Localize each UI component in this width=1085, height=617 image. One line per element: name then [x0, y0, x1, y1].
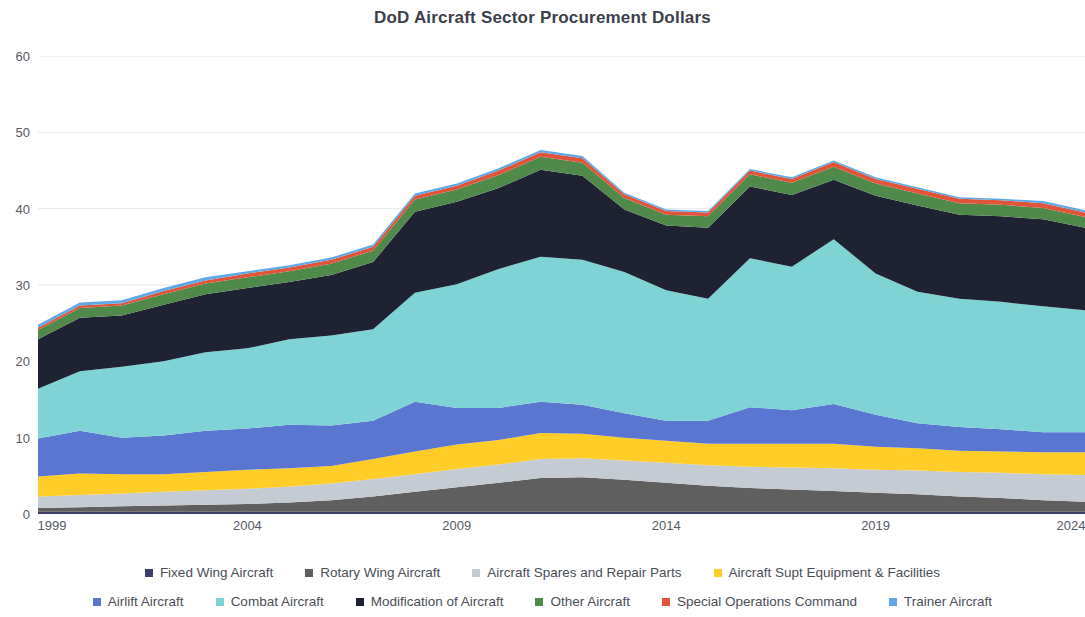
- legend-item-label: Combat Aircraft: [231, 594, 324, 609]
- legend-item-label: Rotary Wing Aircraft: [320, 565, 440, 580]
- legend-item[interactable]: Rotary Wing Aircraft: [305, 565, 440, 580]
- y-axis-tick-label: 60: [16, 49, 30, 64]
- legend-swatch-icon: [305, 569, 313, 577]
- legend-row-primary: Fixed Wing AircraftRotary Wing AircraftA…: [6, 558, 1079, 587]
- y-axis-tick-label: 20: [16, 354, 30, 369]
- legend-item-label: Special Operations Command: [677, 594, 857, 609]
- legend-swatch-icon: [714, 569, 722, 577]
- y-axis-tick-label: 0: [23, 507, 30, 522]
- legend-swatch-icon: [662, 598, 670, 606]
- chart-title: DoD Aircraft Sector Procurement Dollars: [0, 8, 1085, 28]
- legend-item-label: Aircraft Supt Equipment & Facilities: [729, 565, 941, 580]
- y-axis: 0102030405060: [0, 56, 34, 514]
- legend-swatch-icon: [145, 569, 153, 577]
- x-axis-tick-label: 2019: [861, 518, 890, 533]
- y-axis-tick-label: 10: [16, 430, 30, 445]
- legend-swatch-icon: [535, 598, 543, 606]
- y-axis-tick-label: 50: [16, 125, 30, 140]
- legend-item[interactable]: Aircraft Spares and Repair Parts: [472, 565, 681, 580]
- legend-item[interactable]: Special Operations Command: [662, 594, 857, 609]
- x-axis-tick-label: 2009: [442, 518, 471, 533]
- legend-item-label: Modification of Aircraft: [371, 594, 504, 609]
- legend-item[interactable]: Combat Aircraft: [216, 594, 324, 609]
- legend-swatch-icon: [889, 598, 897, 606]
- plot-area: [38, 56, 1085, 514]
- legend-item[interactable]: Modification of Aircraft: [356, 594, 504, 609]
- legend-item[interactable]: Fixed Wing Aircraft: [145, 565, 273, 580]
- legend-item-label: Fixed Wing Aircraft: [160, 565, 273, 580]
- legend-item[interactable]: Airlift Aircraft: [93, 594, 184, 609]
- area-series: [38, 512, 1085, 514]
- y-axis-tick-label: 40: [16, 201, 30, 216]
- legend-item-label: Aircraft Spares and Repair Parts: [487, 565, 681, 580]
- legend-swatch-icon: [472, 569, 480, 577]
- legend-item[interactable]: Other Aircraft: [535, 594, 630, 609]
- x-axis-tick-label: 1999: [38, 518, 67, 533]
- legend-swatch-icon: [216, 598, 224, 606]
- legend-item-label: Airlift Aircraft: [108, 594, 184, 609]
- x-axis-tick-label: 2024: [1057, 518, 1085, 533]
- y-axis-tick-label: 30: [16, 278, 30, 293]
- x-axis-tick-label: 2014: [652, 518, 681, 533]
- legend-item-label: Other Aircraft: [550, 594, 630, 609]
- chart-legend: Fixed Wing AircraftRotary Wing AircraftA…: [0, 558, 1085, 616]
- legend-item-label: Trainer Aircraft: [904, 594, 992, 609]
- legend-swatch-icon: [93, 598, 101, 606]
- x-axis: 199920042009201420192024: [38, 518, 1085, 540]
- x-axis-tick-label: 2004: [233, 518, 262, 533]
- stacked-area-plot: [38, 56, 1085, 514]
- legend-row-secondary: Airlift AircraftCombat AircraftModificat…: [6, 587, 1079, 616]
- legend-item[interactable]: Aircraft Supt Equipment & Facilities: [714, 565, 941, 580]
- legend-swatch-icon: [356, 598, 364, 606]
- legend-item[interactable]: Trainer Aircraft: [889, 594, 992, 609]
- chart-container: DoD Aircraft Sector Procurement Dollars …: [0, 0, 1085, 617]
